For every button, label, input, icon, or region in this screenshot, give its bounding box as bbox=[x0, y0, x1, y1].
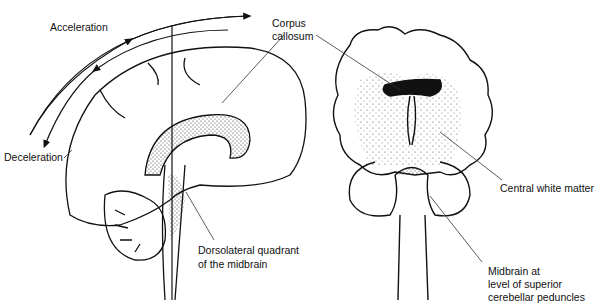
label-central-white-matter: Central white matter bbox=[500, 182, 594, 194]
label-deceleration: Deceleration bbox=[4, 151, 63, 163]
label-corpus-callosum-1: Corpus bbox=[272, 17, 306, 29]
label-midbrain-2: level of superior bbox=[488, 278, 562, 290]
label-dorsolateral-1: Dorsolateral quadrant bbox=[198, 244, 299, 256]
label-acceleration: Acceleration bbox=[50, 21, 108, 33]
label-dorsolateral-2: of the midbrain bbox=[198, 258, 267, 270]
label-midbrain-3: cerebellar peduncles bbox=[488, 291, 585, 303]
sagittal-brain bbox=[66, 47, 306, 300]
label-midbrain-1: Midbrain at bbox=[488, 265, 540, 277]
label-corpus-callosum-2: callosum bbox=[272, 30, 313, 42]
coronal-brain bbox=[333, 27, 492, 300]
diagram-canvas bbox=[0, 0, 600, 305]
